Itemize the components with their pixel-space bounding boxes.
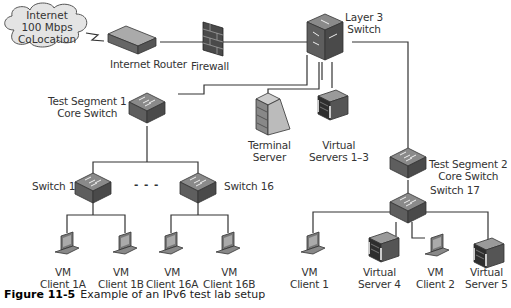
client-1a-label: VM Client 1A xyxy=(40,266,86,290)
virtual-server5-icon xyxy=(473,238,504,268)
layer3-line1: Layer 3 xyxy=(345,11,383,23)
test-segment2-switch-icon xyxy=(390,148,426,178)
virtual-server5-label: Virtual Server 5 xyxy=(465,266,508,290)
terminal-server-icon xyxy=(256,93,290,135)
layer3-line2: Switch xyxy=(345,23,383,35)
test-segment2-label: Test Segment 2 Core Switch xyxy=(429,158,507,182)
ts2-line2: Core Switch xyxy=(429,170,507,182)
ts-line2: Server xyxy=(248,151,291,163)
client-16b-label: VM Client 16B xyxy=(203,266,255,290)
laptop-client-1a-icon xyxy=(55,232,79,254)
terminal-server-label: Terminal Server xyxy=(248,139,291,163)
internet-cloud-label: Internet 100 Mbps CoLocation xyxy=(12,9,82,45)
vs4-line2: Server 4 xyxy=(358,278,401,290)
virtual-servers-1-3-label: Virtual Servers 1–3 xyxy=(309,139,369,163)
c1-line2: Client 1 xyxy=(290,278,329,290)
cloud-line1: Internet xyxy=(12,9,82,21)
c16b-line1: VM xyxy=(203,266,255,278)
layer3-switch-icon xyxy=(307,14,343,60)
test-segment1-switch-icon xyxy=(129,93,165,123)
switch17-icon xyxy=(390,193,426,223)
switch17-label: Switch 17 xyxy=(430,184,480,196)
figure-caption: Figure 11-5Example of an IPv6 test lab s… xyxy=(4,288,265,301)
client-16a-label: VM Client 16A xyxy=(146,266,198,290)
laptop-client-16b-icon xyxy=(216,232,240,254)
cloud-line3: CoLocation xyxy=(12,33,82,45)
vs13-line2: Servers 1–3 xyxy=(309,151,369,163)
ts1-line1: Test Segment 1 xyxy=(48,95,126,107)
c16a-line1: VM xyxy=(146,266,198,278)
vs13-line1: Virtual xyxy=(309,139,369,151)
layer3-switch-label: Layer 3 Switch xyxy=(345,11,383,35)
cloud-line2: 100 Mbps xyxy=(12,21,82,33)
laptop-client-16a-icon xyxy=(159,232,183,254)
laptop-client-2-icon xyxy=(425,234,449,256)
switch1-icon xyxy=(75,173,111,203)
c2-line1: VM xyxy=(416,266,455,278)
switch16-label: Switch 16 xyxy=(224,180,274,192)
ellipsis-label: - - - xyxy=(134,178,159,190)
switch16-icon xyxy=(180,173,216,203)
figure-number: Figure 11-5 xyxy=(4,288,75,301)
virtual-server4-label: Virtual Server 4 xyxy=(358,266,401,290)
virtual-server4-icon xyxy=(368,232,399,262)
ts2-line1: Test Segment 2 xyxy=(429,158,507,170)
laptop-client-1b-icon xyxy=(113,232,137,254)
client-1b-label: VM Client 1B xyxy=(98,266,144,290)
router-icon xyxy=(108,26,156,54)
client-2-label: VM Client 2 xyxy=(416,266,455,290)
c2-line2: Client 2 xyxy=(416,278,455,290)
firewall-icon xyxy=(203,22,223,56)
figure-caption-text: Example of an IPv6 test lab setup xyxy=(80,288,265,301)
vs4-line1: Virtual xyxy=(358,266,401,278)
vs5-line2: Server 5 xyxy=(465,278,508,290)
vs5-line1: Virtual xyxy=(465,266,508,278)
laptop-client-1-icon xyxy=(301,232,325,254)
ts1-line2: Core Switch xyxy=(48,107,126,119)
c1b-line1: VM xyxy=(98,266,144,278)
test-segment1-label: Test Segment 1 Core Switch xyxy=(48,95,126,119)
firewall-label: Firewall xyxy=(191,60,229,72)
c1-line1: VM xyxy=(290,266,329,278)
virtual-servers-1-3-icon xyxy=(317,90,348,120)
internet-router-label: Internet Router xyxy=(110,58,187,70)
ts-line1: Terminal xyxy=(248,139,291,151)
client-1-label: VM Client 1 xyxy=(290,266,329,290)
c1a-line1: VM xyxy=(40,266,86,278)
switch1-label: Switch 1 xyxy=(32,180,75,192)
